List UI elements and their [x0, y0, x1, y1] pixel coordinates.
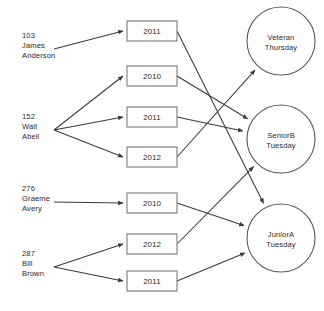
- class-name-label: SeniorB: [267, 131, 295, 140]
- person-id-label: 276: [22, 184, 35, 193]
- year-box[interactable]: 2011: [127, 21, 177, 41]
- class-name-label: JuniorA: [268, 230, 295, 239]
- year-box[interactable]: 2010: [127, 193, 177, 213]
- year-to-class-link: [177, 253, 245, 281]
- person-to-year-link: [54, 76, 123, 130]
- year-box[interactable]: 2010: [127, 66, 177, 86]
- year-box[interactable]: 2011: [127, 271, 177, 291]
- year-to-class-link: [177, 203, 244, 226]
- class-day-label: Tuesday: [266, 240, 296, 249]
- class-node[interactable]: JuniorATuesday: [247, 204, 315, 272]
- person-first-name-label: Bill: [22, 259, 33, 268]
- year-to-class-link: [177, 117, 243, 131]
- person-id-label: 152: [22, 112, 35, 121]
- person-to-year-link: [54, 130, 123, 157]
- year-to-class-link: [177, 76, 248, 119]
- person-node[interactable]: 152WaltAbell: [22, 112, 40, 141]
- person-node[interactable]: 287BillBrown: [22, 249, 44, 278]
- class-circles-group: VeteranThursdaySeniorBTuesdayJuniorATues…: [247, 7, 315, 272]
- diagram-canvas: 2011201020112012201020122011 VeteranThur…: [0, 0, 324, 311]
- year-box-label: 2011: [143, 113, 161, 122]
- year-box[interactable]: 2011: [127, 107, 177, 127]
- person-first-name-label: James: [22, 41, 45, 50]
- person-to-year-link: [54, 31, 123, 49]
- class-node[interactable]: VeteranThursday: [247, 7, 315, 75]
- person-to-year-link: [54, 202, 123, 203]
- year-box-label: 2011: [143, 277, 161, 286]
- year-box-label: 2010: [143, 72, 162, 81]
- year-boxes-group: 2011201020112012201020122011: [127, 21, 177, 291]
- year-box[interactable]: 2012: [127, 147, 177, 167]
- year-box-label: 2012: [143, 240, 162, 249]
- year-box-label: 2011: [143, 27, 161, 36]
- person-node[interactable]: 103JamesAnderson: [22, 31, 55, 60]
- person-node[interactable]: 276GraemeAvery: [22, 184, 50, 213]
- person-id-label: 287: [22, 249, 35, 258]
- year-box-label: 2010: [143, 199, 162, 208]
- person-first-name-label: Walt: [22, 122, 38, 131]
- year-box[interactable]: 2012: [127, 234, 177, 254]
- class-node[interactable]: SeniorBTuesday: [247, 105, 315, 173]
- person-last-name-label: Abell: [22, 132, 40, 141]
- year-box-label: 2012: [143, 153, 162, 162]
- person-labels-group: 103JamesAnderson152WaltAbell276GraemeAve…: [22, 31, 55, 278]
- person-to-year-link: [54, 244, 123, 267]
- class-day-label: Tuesday: [266, 141, 296, 150]
- person-last-name-label: Brown: [22, 269, 44, 278]
- person-id-label: 103: [22, 31, 35, 40]
- person-to-year-link: [54, 267, 123, 281]
- class-day-label: Thursday: [265, 43, 298, 52]
- person-first-name-label: Graeme: [22, 194, 50, 203]
- year-to-class-link: [177, 167, 254, 244]
- class-name-label: Veteran: [268, 33, 295, 42]
- person-to-year-link: [54, 117, 123, 130]
- person-last-name-label: Avery: [22, 204, 42, 213]
- diagram-svg: 2011201020112012201020122011 VeteranThur…: [0, 0, 324, 311]
- person-last-name-label: Anderson: [22, 51, 55, 60]
